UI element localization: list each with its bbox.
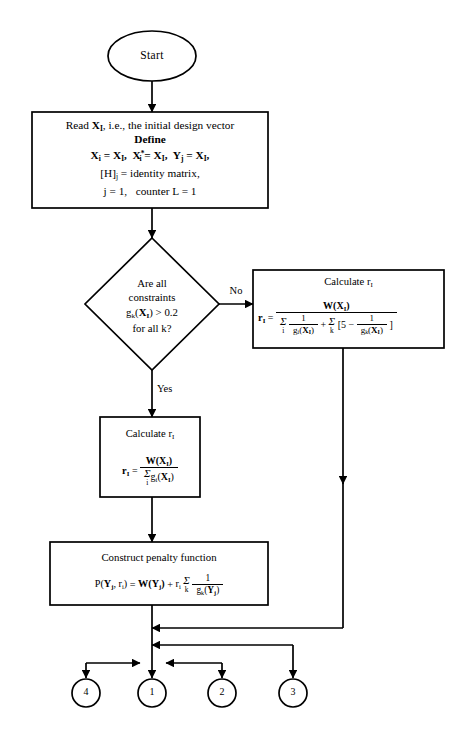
penalty-sum: Σk <box>183 575 190 593</box>
calc-mid-lhs: rI <box>122 465 129 478</box>
calc-right-inner1-den: gi(XI) <box>289 325 318 336</box>
calc-right-inner2-close: ) <box>380 325 383 335</box>
flowchart-diagram: Start Read XI, i.e., the initial design … <box>0 0 458 735</box>
penalty-frac-close: ) <box>216 585 219 595</box>
read-eq-3: = <box>186 149 192 161</box>
penalty-rhs-w-y: Y <box>152 578 159 589</box>
read-counter-init: counter L = 1 <box>136 185 197 197</box>
calc-right-inner2-den: gk(XI) <box>357 325 387 336</box>
connector-label-3: 3 <box>273 686 313 698</box>
calc-right-lhs-sub: I <box>263 317 266 324</box>
read-box-line-1: Read XI, i.e., the initial design vector <box>32 119 268 134</box>
calc-right-inner-frac-1: 1 gi(XI) <box>289 313 318 336</box>
read-hessian: [H] <box>100 167 116 179</box>
read-yj: Y <box>173 149 181 161</box>
calc-right-heading-text: Calculate r <box>324 276 370 287</box>
connector-label-1: 1 <box>132 686 172 698</box>
decision-line-2: constraints <box>92 290 212 304</box>
calc-mid-equation: rI = W(XI) Σigi(XI) <box>100 455 200 487</box>
calc-right-plus: + <box>320 319 326 331</box>
calc-mid-lhs-sub: I <box>127 469 130 476</box>
connector-label-2: 2 <box>202 686 242 698</box>
calc-mid-equals: = <box>132 465 138 477</box>
penalty-frac-num: 1 <box>192 573 223 585</box>
penalty-equation: P(Yj, ri) = W(Yj) + ri Σk 1 gk(Yj) <box>50 573 268 596</box>
penalty-sum-index: k <box>183 586 190 593</box>
calc-right-lhs: rI <box>258 312 265 325</box>
decision-line-3: gk(XI) > 0.2 <box>92 305 212 321</box>
calc-right-minus: − <box>348 319 354 331</box>
penalty-rhs-w-close: ) <box>161 578 164 589</box>
read-comma-2: , <box>165 149 168 161</box>
calc-right-inner1-num: 1 <box>289 313 318 325</box>
read-xi-sub: i <box>99 154 101 163</box>
penalty-close: ) <box>124 578 127 589</box>
calc-right-heading: Calculate rI <box>253 276 444 289</box>
no-branch-label: No <box>221 285 251 297</box>
read-j-init: j = 1, <box>104 185 128 197</box>
penalty-equals: = <box>130 579 136 591</box>
read-eq-2: = <box>144 149 150 161</box>
read-xi: X <box>91 149 99 161</box>
calc-right-sum1-index: i <box>280 327 287 334</box>
calc-mid-heading-text: Calculate r <box>126 428 172 439</box>
read-yj-sub: j <box>181 154 183 163</box>
calc-right-equals: = <box>268 312 274 324</box>
flowchart-canvas <box>0 0 458 735</box>
read-xistar-sub: i <box>139 154 141 163</box>
calc-right-inner2-num: 1 <box>357 313 387 325</box>
penalty-fraction: 1 gk(Yj) <box>192 573 223 596</box>
penalty-rhs-r-sub: i <box>179 583 181 590</box>
read-line1-prefix: Read <box>66 119 92 131</box>
read-comma-1: , <box>124 149 127 161</box>
yes-branch-label: Yes <box>157 383 191 395</box>
read-eq-4: = <box>121 167 127 179</box>
calc-mid-den-close: ) <box>171 471 174 482</box>
penalty-rhs-w-char: W <box>138 578 148 589</box>
read-box-line-5: j = 1, counter L = 1 <box>32 185 268 198</box>
penalty-frac-den: gk(Yj) <box>192 585 223 596</box>
calc-right-num-close: ) <box>346 300 349 311</box>
read-box-line-4: [H]j = identity matrix, <box>32 167 268 182</box>
connector-label-4: 4 <box>66 686 106 698</box>
calc-mid-heading-sub: I <box>172 433 174 441</box>
calc-right-inner1-close: ) <box>311 325 314 335</box>
calc-right-sum-1: Σi <box>280 316 287 334</box>
read-line1-vector: X <box>92 119 100 131</box>
calc-right-bracket-open: [5 <box>338 319 346 331</box>
penalty-plus: + <box>167 579 173 591</box>
calc-mid-num-w: W <box>146 455 156 466</box>
calc-right-denominator: Σi 1 gi(XI) + Σk [5 − 1 gk(XI) ] <box>276 313 397 336</box>
read-comma-3: , <box>207 149 210 161</box>
calc-right-num-x: X <box>336 300 343 311</box>
calc-right-sum-2: Σk <box>329 316 336 334</box>
penalty-rhs-r: ri <box>175 578 180 591</box>
calc-mid-den-term: gi(XI) <box>151 471 174 483</box>
calc-right-heading-sub: I <box>370 281 372 289</box>
decision-line-4: for all k? <box>92 321 212 335</box>
read-box-line-2: Define <box>32 133 268 146</box>
read-line1-suffix: , i.e., the initial design vector <box>103 119 234 131</box>
penalty-heading: Construct penalty function <box>50 551 268 564</box>
calc-right-sum2-index: k <box>329 327 336 334</box>
calc-mid-num-close: ) <box>169 455 172 466</box>
calc-mid-den-x: X <box>161 471 168 482</box>
start-label: Start <box>112 49 192 63</box>
read-eq-1: = <box>104 149 110 161</box>
decision-line-1: Are all <box>92 276 212 290</box>
decision-relation: > 0.2 <box>156 306 178 318</box>
read-identity-matrix: identity matrix, <box>130 167 200 179</box>
read-xI-2: X <box>154 149 162 161</box>
decision-paren-close: ) <box>149 306 153 318</box>
calc-right-inner-frac-2: 1 gk(XI) <box>357 313 387 336</box>
calc-mid-heading: Calculate rI <box>100 428 200 441</box>
read-box-line-3: Xi = XI, X*i = XI, Yj = XI, <box>32 149 268 164</box>
read-xI-1: X <box>113 149 121 161</box>
calc-right-num-w: W <box>323 300 333 311</box>
calc-right-numerator: W(XI) <box>276 300 397 313</box>
read-xI-3: X <box>195 149 203 161</box>
calc-mid-fraction: W(XI) Σigi(XI) <box>140 455 178 487</box>
penalty-lhs: P(Yj, ri) <box>95 578 127 591</box>
penalty-rhs-w: W(Yj) <box>138 578 165 591</box>
decision-x: X <box>139 306 147 318</box>
